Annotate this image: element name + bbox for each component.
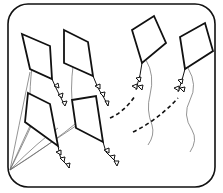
rounded-frame (8, 4, 215, 187)
kites-illustration: kites (0, 0, 223, 193)
kites-drawing (0, 0, 223, 193)
